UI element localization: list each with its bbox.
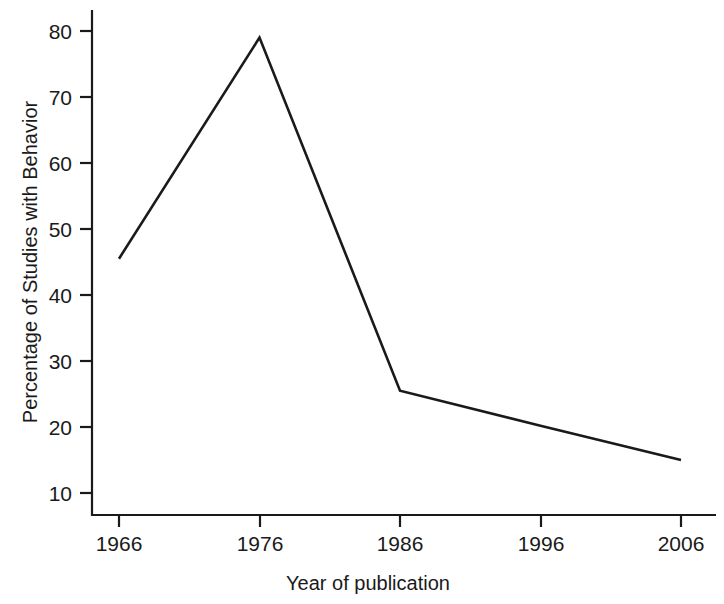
x-tick-label-1986: 1986 bbox=[377, 532, 424, 555]
chart-canvas: 80 70 60 50 40 30 20 10 1966 1976 1986 1… bbox=[0, 0, 724, 604]
y-tick-label-60: 60 bbox=[49, 152, 72, 175]
x-tick-label-2006: 2006 bbox=[658, 532, 705, 555]
x-tick-label-1996: 1996 bbox=[518, 532, 565, 555]
y-tick-label-20: 20 bbox=[49, 416, 72, 439]
y-tick-label-30: 30 bbox=[49, 350, 72, 373]
y-tick-label-10: 10 bbox=[49, 482, 72, 505]
y-axis-title: Percentage of Studies with Behavior bbox=[19, 100, 41, 423]
line-chart-figure: 80 70 60 50 40 30 20 10 1966 1976 1986 1… bbox=[0, 0, 724, 604]
x-tick-label-1966: 1966 bbox=[96, 532, 143, 555]
x-tick-label-1976: 1976 bbox=[237, 532, 284, 555]
y-tick-label-50: 50 bbox=[49, 218, 72, 241]
y-tick-label-70: 70 bbox=[49, 86, 72, 109]
y-tick-label-80: 80 bbox=[49, 20, 72, 43]
x-axis-title: Year of publication bbox=[286, 572, 450, 594]
chart-background bbox=[0, 0, 724, 604]
y-tick-label-40: 40 bbox=[49, 284, 72, 307]
